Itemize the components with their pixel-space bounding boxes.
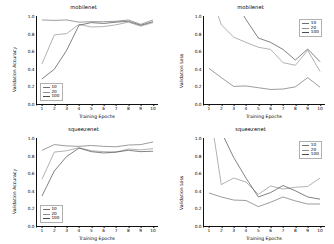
x-tick: 1: [208, 226, 211, 233]
y-tick: 0.6: [195, 171, 203, 176]
legend: 10 20 100: [40, 83, 63, 101]
legend-swatch-100: [43, 96, 50, 97]
legend-item: 100: [43, 94, 60, 99]
legend-item: 100: [302, 30, 319, 35]
legend: 10 20 100: [299, 141, 322, 159]
x-tick: 6: [269, 104, 272, 111]
plot-box: 1.0 0.8 0.6 0.4 0.2 0.0 1 2 3 4 5 6 7 8 …: [36, 16, 158, 105]
y-tick: 0.0: [195, 224, 203, 229]
legend-swatch-20: [302, 28, 309, 29]
x-tick: 10: [317, 226, 322, 233]
legend-swatch-20: [43, 92, 50, 93]
legend-swatch-10: [43, 87, 50, 88]
x-tick: 6: [102, 226, 105, 233]
x-axis-label: Training Epochs: [203, 114, 325, 119]
y-tick: 0.0: [195, 102, 203, 107]
y-tick: 0.8: [195, 153, 203, 158]
legend: 10 20 100: [40, 205, 63, 223]
legend-swatch-10: [43, 209, 50, 210]
x-tick: 2: [220, 226, 223, 233]
x-tick: 3: [232, 104, 235, 111]
series-line-100: [42, 148, 153, 196]
panel-mobilenet-accuracy: mobilenet Validation Accuracy 1.0 0.8 0.…: [0, 4, 167, 122]
x-tick: 9: [306, 226, 309, 233]
x-tick: 10: [150, 104, 155, 111]
y-tick: 1.0: [195, 136, 203, 141]
y-tick: 1.0: [28, 136, 36, 141]
y-tick: 0.4: [195, 188, 203, 193]
y-tick: 0.0: [28, 102, 36, 107]
legend-label: 100: [311, 152, 319, 157]
legend-swatch-20: [43, 214, 50, 215]
series-line-10: [209, 68, 320, 89]
x-tick: 4: [78, 104, 81, 111]
x-tick: 4: [78, 226, 81, 233]
y-tick: 0.6: [195, 49, 203, 54]
y-axis-label: Validation Loss: [179, 54, 184, 88]
panel-squeezenet-loss: squeezenet Validation Loss 1.0 0.8 0.6 0…: [167, 126, 334, 244]
y-axis-label: Validation Accuracy: [12, 47, 17, 92]
legend-label: 100: [311, 30, 319, 35]
legend-label: 100: [51, 94, 59, 99]
panel-title: mobilenet: [167, 4, 334, 10]
y-tick: 0.8: [195, 31, 203, 36]
x-tick: 10: [150, 226, 155, 233]
legend-item: 100: [302, 152, 319, 157]
series-line-100: [42, 21, 153, 79]
legend-swatch-100: [302, 32, 309, 33]
x-tick: 8: [127, 104, 130, 111]
x-tick: 1: [208, 104, 211, 111]
y-tick: 0.4: [195, 66, 203, 71]
x-tick: 7: [115, 226, 118, 233]
x-tick: 8: [294, 104, 297, 111]
y-tick: 1.0: [28, 14, 36, 19]
legend-swatch-10: [302, 145, 309, 146]
x-tick: 5: [90, 104, 93, 111]
legend-swatch-100: [302, 154, 309, 155]
x-tick: 5: [257, 226, 260, 233]
x-tick: 7: [282, 226, 285, 233]
x-tick: 2: [220, 104, 223, 111]
x-tick: 7: [282, 104, 285, 111]
plot-box: 1.0 0.8 0.6 0.4 0.2 0.0 1 2 3 4 5 6 7 8 …: [36, 138, 158, 227]
y-tick: 0.8: [28, 31, 36, 36]
x-tick: 4: [245, 104, 248, 111]
x-tick: 3: [65, 104, 68, 111]
y-tick: 1.0: [195, 14, 203, 19]
x-tick: 2: [53, 226, 56, 233]
y-tick: 0.2: [28, 84, 36, 89]
y-tick: 0.4: [28, 66, 36, 71]
y-tick: 0.6: [28, 171, 36, 176]
plot-box: 1.0 0.8 0.6 0.4 0.2 0.0 1 2 3 4 5 6 7 8 …: [203, 138, 325, 227]
x-tick: 1: [41, 226, 44, 233]
x-tick: 9: [139, 226, 142, 233]
x-tick: 7: [115, 104, 118, 111]
y-tick: 0.0: [28, 224, 36, 229]
legend-swatch-20: [302, 150, 309, 151]
series-line-20: [42, 22, 153, 64]
y-tick: 0.2: [195, 206, 203, 211]
x-tick: 3: [65, 226, 68, 233]
y-axis-label: Validation Accuracy: [12, 169, 17, 214]
x-tick: 9: [139, 104, 142, 111]
x-tick: 4: [245, 226, 248, 233]
x-tick: 3: [232, 226, 235, 233]
legend: 10 20 100: [299, 19, 322, 37]
panel-title: squeezenet: [167, 126, 334, 132]
x-tick: 10: [317, 104, 322, 111]
x-tick: 9: [306, 104, 309, 111]
x-tick: 8: [127, 226, 130, 233]
y-tick: 0.6: [28, 49, 36, 54]
x-tick: 1: [41, 104, 44, 111]
y-axis-label: Validation Loss: [179, 176, 184, 210]
panel-title: squeezenet: [0, 126, 167, 132]
figure-canvas: mobilenet Validation Accuracy 1.0 0.8 0.…: [0, 0, 334, 244]
x-tick: 5: [90, 226, 93, 233]
y-tick: 0.4: [28, 188, 36, 193]
legend-label: 100: [51, 216, 59, 221]
plot-box: 1.0 0.8 0.6 0.4 0.2 0.0 1 2 3 4 5 6 7 8 …: [203, 16, 325, 105]
panel-title: mobilenet: [0, 4, 167, 10]
x-tick: 5: [257, 104, 260, 111]
x-tick: 6: [102, 104, 105, 111]
y-tick: 0.2: [28, 206, 36, 211]
